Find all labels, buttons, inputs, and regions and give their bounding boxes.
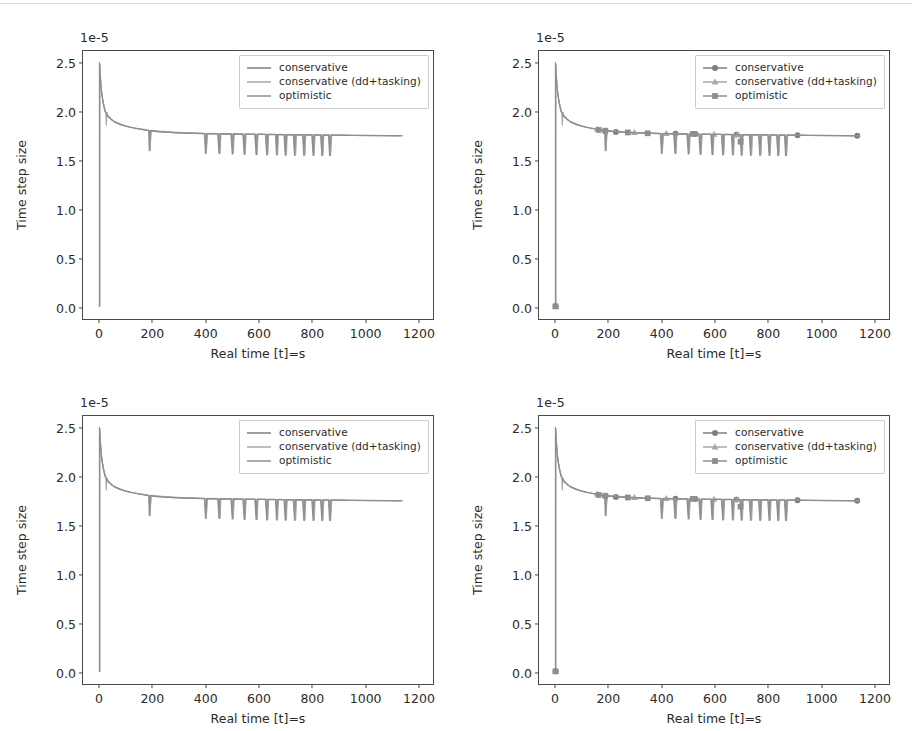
legend-item[interactable]: conservative (dd+tasking) bbox=[246, 75, 421, 89]
x-tick-label: 400 bbox=[650, 691, 674, 706]
data-marker-square bbox=[602, 128, 608, 134]
x-tick-label: 1000 bbox=[806, 691, 838, 706]
legend-swatch-none-icon bbox=[246, 440, 272, 454]
x-axis-label: Real time [t]=s bbox=[538, 346, 890, 361]
x-tick-label: 200 bbox=[596, 691, 620, 706]
x-tick-mark bbox=[874, 684, 875, 688]
chart-legend[interactable]: conservativeconservative (dd+tasking)opt… bbox=[695, 420, 885, 474]
y-tick-label: 0.5 bbox=[512, 617, 532, 632]
y-tick-label: 2.5 bbox=[56, 420, 76, 435]
legend-swatch-square-icon bbox=[702, 89, 728, 103]
chart-panel-top-left: 1e-5Time step sizeReal time [t]=s0.00.51… bbox=[0, 8, 456, 373]
data-marker-square bbox=[690, 131, 696, 137]
data-marker-square bbox=[553, 303, 559, 309]
y-axis-label: Time step size bbox=[470, 415, 486, 685]
x-tick-label: 1200 bbox=[403, 691, 435, 706]
x-tick-mark bbox=[661, 684, 662, 688]
legend-swatch-square-icon bbox=[702, 454, 728, 468]
x-tick-mark bbox=[661, 319, 662, 323]
x-tick-label: 1000 bbox=[350, 691, 382, 706]
plot-area: 0.00.51.01.52.02.5020040060080010001200c… bbox=[82, 415, 434, 685]
legend-swatch-none-icon bbox=[246, 89, 272, 103]
x-tick-mark bbox=[152, 684, 153, 688]
y-tick-label: 2.0 bbox=[512, 469, 532, 484]
legend-item[interactable]: optimistic bbox=[246, 454, 421, 468]
x-tick-label: 800 bbox=[300, 326, 324, 341]
x-tick-label: 0 bbox=[551, 691, 559, 706]
y-tick-label: 2.0 bbox=[512, 104, 532, 119]
legend-label: conservative (dd+tasking) bbox=[279, 75, 421, 89]
x-tick-label: 600 bbox=[703, 691, 727, 706]
x-tick-label: 200 bbox=[596, 326, 620, 341]
y-axis-offset-text: 1e-5 bbox=[536, 30, 565, 45]
x-tick-label: 600 bbox=[703, 326, 727, 341]
legend-item[interactable]: optimistic bbox=[702, 89, 877, 103]
data-marker-square bbox=[553, 668, 559, 674]
y-axis-offset-text: 1e-5 bbox=[80, 395, 109, 410]
y-tick-label: 2.5 bbox=[56, 55, 76, 70]
x-tick-mark bbox=[418, 684, 419, 688]
legend-item[interactable]: optimistic bbox=[702, 454, 877, 468]
legend-label: optimistic bbox=[279, 454, 332, 468]
y-axis-label: Time step size bbox=[470, 50, 486, 320]
data-marker-square bbox=[645, 495, 651, 501]
plot-area: 0.00.51.01.52.02.5020040060080010001200c… bbox=[538, 415, 890, 685]
legend-swatch-none-icon bbox=[246, 75, 272, 89]
x-axis-label: Real time [t]=s bbox=[82, 346, 434, 361]
chart-panel-top-right: 1e-5Time step sizeReal time [t]=s0.00.51… bbox=[456, 8, 912, 373]
plot-area: 0.00.51.01.52.02.5020040060080010001200c… bbox=[538, 50, 890, 320]
x-tick-label: 0 bbox=[95, 326, 103, 341]
data-marker-square bbox=[596, 127, 602, 133]
data-marker-square bbox=[596, 492, 602, 498]
y-tick-label: 1.5 bbox=[512, 518, 532, 533]
chart-legend[interactable]: conservativeconservative (dd+tasking)opt… bbox=[239, 420, 429, 474]
legend-item[interactable]: conservative bbox=[702, 61, 877, 75]
chart-legend[interactable]: conservativeconservative (dd+tasking)opt… bbox=[239, 55, 429, 109]
legend-label: conservative bbox=[735, 426, 804, 440]
x-tick-label: 200 bbox=[140, 326, 164, 341]
legend-item[interactable]: conservative bbox=[246, 61, 421, 75]
x-tick-mark bbox=[554, 684, 555, 688]
chart-legend[interactable]: conservativeconservative (dd+tasking)opt… bbox=[695, 55, 885, 109]
data-marker-square bbox=[602, 493, 608, 499]
legend-label: optimistic bbox=[735, 89, 788, 103]
legend-item[interactable]: conservative bbox=[246, 426, 421, 440]
y-tick-label: 0.0 bbox=[512, 666, 532, 681]
x-tick-label: 400 bbox=[194, 326, 218, 341]
y-tick-label: 0.5 bbox=[56, 617, 76, 632]
legend-item[interactable]: optimistic bbox=[246, 89, 421, 103]
x-tick-mark bbox=[608, 684, 609, 688]
legend-item[interactable]: conservative (dd+tasking) bbox=[702, 75, 877, 89]
y-tick-label: 1.0 bbox=[56, 568, 76, 583]
x-tick-mark bbox=[608, 319, 609, 323]
y-tick-label: 1.5 bbox=[512, 153, 532, 168]
legend-swatch-none-icon bbox=[246, 61, 272, 75]
legend-swatch-circle-icon bbox=[702, 426, 728, 440]
legend-swatch-triangle-icon bbox=[702, 75, 728, 89]
y-tick-label: 1.0 bbox=[512, 203, 532, 218]
y-tick-label: 2.0 bbox=[56, 469, 76, 484]
x-tick-mark bbox=[768, 319, 769, 323]
data-marker-square bbox=[690, 496, 696, 502]
x-tick-mark bbox=[874, 319, 875, 323]
y-tick-label: 0.5 bbox=[56, 252, 76, 267]
legend-label: conservative bbox=[279, 426, 348, 440]
x-tick-mark bbox=[365, 319, 366, 323]
legend-label: optimistic bbox=[735, 454, 788, 468]
y-tick-label: 2.0 bbox=[56, 104, 76, 119]
legend-item[interactable]: conservative (dd+tasking) bbox=[246, 440, 421, 454]
legend-item[interactable]: conservative bbox=[702, 426, 877, 440]
y-tick-label: 1.0 bbox=[56, 203, 76, 218]
y-tick-label: 1.5 bbox=[56, 518, 76, 533]
x-tick-label: 1000 bbox=[806, 326, 838, 341]
x-tick-mark bbox=[98, 684, 99, 688]
x-tick-mark bbox=[98, 319, 99, 323]
y-axis-offset-text: 1e-5 bbox=[80, 30, 109, 45]
y-axis-label: Time step size bbox=[14, 50, 30, 320]
y-tick-label: 1.0 bbox=[512, 568, 532, 583]
x-tick-label: 800 bbox=[300, 691, 324, 706]
data-marker-square bbox=[625, 130, 631, 136]
legend-item[interactable]: conservative (dd+tasking) bbox=[702, 440, 877, 454]
x-tick-label: 800 bbox=[756, 691, 780, 706]
x-axis-label: Real time [t]=s bbox=[82, 711, 434, 726]
